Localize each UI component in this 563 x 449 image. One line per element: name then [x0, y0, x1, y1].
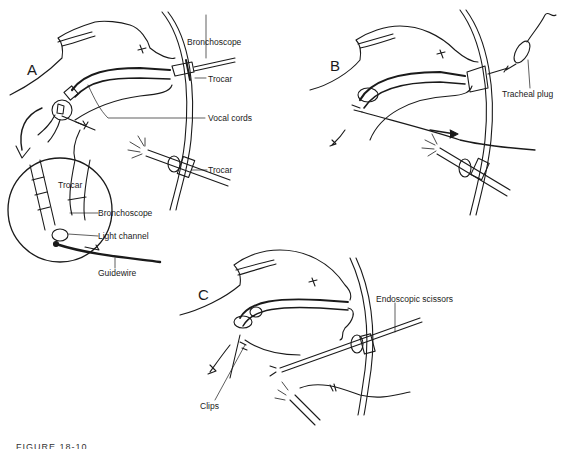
panel-b-letter: B	[330, 58, 340, 73]
label-tracheal-plug: Tracheal plug	[502, 90, 553, 99]
panel-c-drawing	[180, 250, 422, 425]
panel-c-letter: C	[198, 287, 209, 302]
panel-a-letter: A	[27, 62, 37, 77]
label-trocar-bottom: Trocar	[208, 166, 232, 175]
label-inset-trocar: Trocar	[58, 181, 82, 190]
label-inset-bronchoscope: Bronchoscope	[98, 209, 152, 218]
line-art-drawing	[0, 0, 563, 449]
panel-b-drawing	[310, 10, 556, 215]
label-inset-light-channel: Light channel	[98, 232, 149, 241]
label-vocal-cords: Vocal cords	[208, 114, 252, 123]
medical-illustration-figure: A B C Bronchoscope Trocar Vocal cords Tr…	[0, 0, 563, 449]
label-endoscopic-scissors: Endoscopic scissors	[376, 295, 453, 304]
label-trocar-top: Trocar	[208, 75, 232, 84]
label-bronchoscope: Bronchoscope	[187, 38, 241, 47]
figure-caption-partial: FIGURE 18-10	[16, 443, 88, 449]
label-inset-guidewire: Guidewire	[98, 269, 136, 278]
label-clips: Clips	[200, 402, 219, 411]
